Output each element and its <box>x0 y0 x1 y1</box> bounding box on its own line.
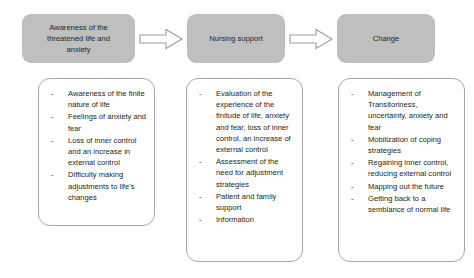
list-item: - Mobilization of coping strategies <box>348 134 457 156</box>
list-item: - Loss of inner control and an increase … <box>48 135 147 169</box>
list-item: - Information <box>196 214 295 225</box>
bullet-list: - Awareness of the finite nature of life… <box>48 88 147 203</box>
list-item: - Regaining inner control, reducing exte… <box>348 157 457 179</box>
bullet-dash-icon: - <box>199 156 202 167</box>
bullet-dash-icon: - <box>351 134 354 145</box>
list-item: - Awareness of the finite nature of life <box>48 88 147 110</box>
stage-details-nursing-support: - Evaluation of the experience of the fi… <box>186 78 303 262</box>
list-item-label: Mapping out the future <box>368 181 457 192</box>
stage-details-change: - Management of Transitoriness, uncertai… <box>338 78 465 262</box>
bullet-dash-icon: - <box>351 88 354 99</box>
list-item: - Assessment of the need for adjustment … <box>196 156 295 190</box>
bullet-dash-icon: - <box>351 157 354 168</box>
bullet-dash-icon: - <box>51 88 54 99</box>
list-item: - Evaluation of the experience of the fi… <box>196 88 295 155</box>
list-item: - Difficulty making adjustments to life'… <box>48 169 147 203</box>
list-item-label: Assessment of the need for adjustment st… <box>216 156 295 190</box>
stage-header-label: Change <box>373 33 400 44</box>
bullet-list: - Management of Transitoriness, uncertai… <box>348 88 457 215</box>
bullet-dash-icon: - <box>351 181 354 192</box>
list-item: - Getting back to a semblance of normal … <box>348 193 457 215</box>
bullet-dash-icon: - <box>199 88 202 99</box>
list-item-label: Patient and family support <box>216 191 295 213</box>
stage-header-awareness: Awareness of the threatened life and anx… <box>22 14 135 63</box>
process-diagram: Awareness of the threatened life and anx… <box>0 0 474 278</box>
bullet-dash-icon: - <box>351 193 354 204</box>
list-item-label: Mobilization of coping strategies <box>368 134 457 156</box>
bullet-dash-icon: - <box>199 214 202 225</box>
bullet-list: - Evaluation of the experience of the fi… <box>196 88 295 225</box>
list-item-label: Evaluation of the experience of the fini… <box>216 88 295 155</box>
list-item-label: Loss of inner control and an increase in… <box>68 135 147 169</box>
bullet-dash-icon: - <box>199 191 202 202</box>
stage-details-awareness: - Awareness of the finite nature of life… <box>38 78 155 226</box>
list-item-label: Awareness of the finite nature of life <box>68 88 147 110</box>
stage-header-nursing-support: Nursing support <box>187 14 285 63</box>
list-item-label: Information <box>216 214 295 225</box>
stage-header-label: Nursing support <box>209 33 263 44</box>
list-item-label: Difficulty making adjustments to life's … <box>68 169 147 203</box>
list-item: - Patient and family support <box>196 191 295 213</box>
list-item-label: Regaining inner control, reducing extern… <box>368 157 457 179</box>
stage-header-label: Awareness of the threatened life and anx… <box>47 22 110 55</box>
list-item: - Management of Transitoriness, uncertai… <box>348 88 457 133</box>
bullet-dash-icon: - <box>51 135 54 146</box>
list-item-label: Management of Transitoriness, uncertaint… <box>368 88 457 133</box>
list-item-label: Feelings of anxiety and fear <box>68 111 147 133</box>
arrow-stage-2-to-3-icon <box>289 28 333 50</box>
arrow-stage-1-to-2-icon <box>139 28 183 50</box>
bullet-dash-icon: - <box>51 169 54 180</box>
list-item: - Feelings of anxiety and fear <box>48 111 147 133</box>
list-item-label: Getting back to a semblance of normal li… <box>368 193 457 215</box>
list-item: - Mapping out the future <box>348 181 457 192</box>
bullet-dash-icon: - <box>51 111 54 122</box>
stage-header-change: Change <box>337 14 435 63</box>
